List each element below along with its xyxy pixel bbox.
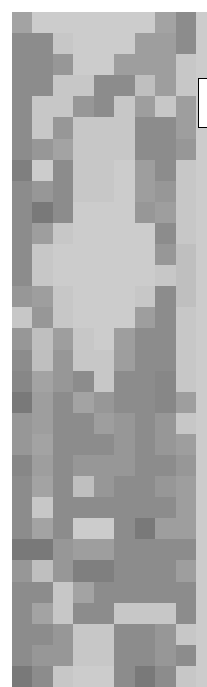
heatmap-cell <box>73 265 93 286</box>
heatmap-cell <box>12 12 32 33</box>
heatmap-cell <box>12 244 32 265</box>
heatmap-cell <box>176 666 196 687</box>
heatmap-cell <box>32 582 52 603</box>
legend-box[interactable] <box>198 78 207 128</box>
heatmap-cell <box>94 202 114 223</box>
heatmap-cell <box>176 413 196 434</box>
heatmap-cell <box>155 455 175 476</box>
heatmap-cell <box>73 160 93 181</box>
heatmap-cell <box>12 560 32 581</box>
heatmap-cell <box>94 181 114 202</box>
heatmap-cell <box>53 371 73 392</box>
heatmap-cell <box>155 582 175 603</box>
heatmap-cell <box>114 265 134 286</box>
heatmap-cell <box>73 328 93 349</box>
heatmap-cell <box>12 223 32 244</box>
heatmap-cell <box>53 455 73 476</box>
heatmap-cell <box>135 244 155 265</box>
heatmap-cell <box>155 75 175 96</box>
heatmap-cell <box>114 181 134 202</box>
heatmap-cell <box>114 286 134 307</box>
heatmap-cell <box>53 434 73 455</box>
heatmap-cell <box>32 603 52 624</box>
heatmap-cell <box>135 603 155 624</box>
heatmap-cell <box>135 265 155 286</box>
heatmap-cell <box>114 75 134 96</box>
heatmap-cell <box>176 223 196 244</box>
heatmap-cell <box>32 645 52 666</box>
heatmap-cell <box>32 12 52 33</box>
heatmap-cell <box>155 307 175 328</box>
heatmap-cell <box>114 392 134 413</box>
heatmap-cell <box>73 33 93 54</box>
heatmap-cell <box>155 54 175 75</box>
heatmap-cell <box>176 33 196 54</box>
heatmap-cell <box>176 582 196 603</box>
heatmap-cell <box>135 582 155 603</box>
heatmap-cell <box>32 181 52 202</box>
heatmap-cell <box>12 497 32 518</box>
heatmap-cell <box>12 413 32 434</box>
heatmap-cell <box>176 350 196 371</box>
heatmap-cell <box>155 497 175 518</box>
heatmap-cell <box>135 350 155 371</box>
heatmap-cell <box>12 434 32 455</box>
heatmap-cell <box>94 497 114 518</box>
heatmap-cell <box>155 139 175 160</box>
heatmap-cell <box>53 75 73 96</box>
heatmap-cell <box>53 476 73 497</box>
heatmap-cell <box>73 139 93 160</box>
heatmap-cell <box>94 244 114 265</box>
heatmap-cell <box>155 392 175 413</box>
heatmap-cell <box>53 265 73 286</box>
heatmap-cell <box>32 476 52 497</box>
heatmap-cell <box>94 139 114 160</box>
heatmap-cell <box>53 244 73 265</box>
heatmap-cell <box>12 75 32 96</box>
heatmap-cell <box>135 645 155 666</box>
heatmap-cell <box>155 244 175 265</box>
heatmap-cell <box>176 202 196 223</box>
heatmap-cell <box>53 624 73 645</box>
heatmap-cell <box>135 117 155 138</box>
heatmap-cell <box>176 645 196 666</box>
heatmap-cell <box>155 603 175 624</box>
heatmap-cell <box>53 413 73 434</box>
heatmap-cell <box>155 645 175 666</box>
heatmap-grid[interactable] <box>12 12 196 687</box>
heatmap-cell <box>53 286 73 307</box>
heatmap-cell <box>73 54 93 75</box>
heatmap-cell <box>135 96 155 117</box>
heatmap-cell <box>114 582 134 603</box>
heatmap-cell <box>53 96 73 117</box>
heatmap-cell <box>176 539 196 560</box>
heatmap-cell <box>53 560 73 581</box>
heatmap-cell <box>53 350 73 371</box>
heatmap-cell <box>12 624 32 645</box>
heatmap-cell <box>176 181 196 202</box>
heatmap-cell <box>53 328 73 349</box>
heatmap-cell <box>94 392 114 413</box>
heatmap-cell <box>12 33 32 54</box>
heatmap-cell <box>73 350 93 371</box>
heatmap-cell <box>114 455 134 476</box>
heatmap-cell <box>135 33 155 54</box>
heatmap-cell <box>53 160 73 181</box>
heatmap-cell <box>155 202 175 223</box>
heatmap-cell <box>114 560 134 581</box>
heatmap-cell <box>32 371 52 392</box>
heatmap-cell <box>32 560 52 581</box>
heatmap-cell <box>53 202 73 223</box>
heatmap-cell <box>114 518 134 539</box>
heatmap-cell <box>94 582 114 603</box>
heatmap-cell <box>176 160 196 181</box>
heatmap-cell <box>94 117 114 138</box>
heatmap-cell <box>94 560 114 581</box>
heatmap-cell <box>155 518 175 539</box>
heatmap-cell <box>94 160 114 181</box>
heatmap-cell <box>114 96 134 117</box>
heatmap-cell <box>73 244 93 265</box>
heatmap-cell <box>114 117 134 138</box>
heatmap-cell <box>73 392 93 413</box>
heatmap-cell <box>73 603 93 624</box>
